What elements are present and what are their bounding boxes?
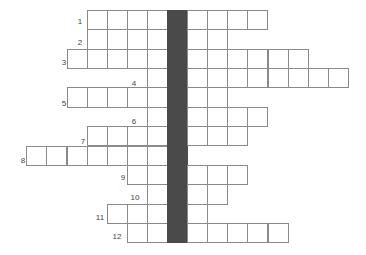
letter-cell[interactable] [187, 29, 208, 49]
letter-cell[interactable] [247, 223, 268, 243]
key-column-cell[interactable] [167, 204, 188, 224]
letter-cell[interactable] [187, 10, 208, 30]
letter-cell[interactable] [187, 204, 208, 224]
letter-cell[interactable] [227, 49, 248, 69]
clue-number: 12 [113, 233, 122, 241]
letter-cell[interactable] [107, 87, 128, 107]
letter-cell[interactable] [127, 29, 148, 49]
letter-cell[interactable] [207, 10, 228, 30]
letter-cell[interactable] [147, 165, 168, 185]
letter-cell[interactable] [127, 165, 148, 185]
letter-cell[interactable] [147, 146, 168, 166]
letter-cell[interactable] [147, 126, 168, 146]
key-column-cell[interactable] [167, 68, 188, 88]
letter-cell[interactable] [207, 87, 228, 107]
clue-number: 2 [78, 39, 82, 47]
letter-cell[interactable] [127, 146, 148, 166]
letter-cell[interactable] [107, 204, 128, 224]
letter-cell[interactable] [227, 223, 248, 243]
letter-cell[interactable] [187, 49, 208, 69]
letter-cell[interactable] [187, 165, 208, 185]
letter-cell[interactable] [207, 107, 228, 127]
crossword-grid: 123456789101112 [0, 0, 366, 255]
letter-cell[interactable] [87, 87, 108, 107]
letter-cell[interactable] [127, 10, 148, 30]
key-column-cell[interactable] [167, 10, 188, 30]
key-column-cell[interactable] [167, 126, 188, 146]
letter-cell[interactable] [207, 126, 228, 146]
letter-cell[interactable] [207, 223, 228, 243]
letter-cell[interactable] [87, 10, 108, 30]
letter-cell[interactable] [247, 10, 268, 30]
letter-cell[interactable] [87, 49, 108, 69]
letter-cell[interactable] [147, 49, 168, 69]
letter-cell[interactable] [147, 10, 168, 30]
letter-cell[interactable] [207, 184, 228, 204]
letter-cell[interactable] [187, 107, 208, 127]
letter-cell[interactable] [207, 49, 228, 69]
letter-cell[interactable] [227, 10, 248, 30]
letter-cell[interactable] [227, 68, 248, 88]
letter-cell[interactable] [147, 184, 168, 204]
letter-cell[interactable] [247, 68, 268, 88]
clue-number: 9 [121, 174, 125, 182]
letter-cell[interactable] [187, 184, 208, 204]
letter-cell[interactable] [87, 29, 108, 49]
letter-cell[interactable] [147, 107, 168, 127]
letter-cell[interactable] [147, 223, 168, 243]
letter-cell[interactable] [247, 49, 268, 69]
letter-cell[interactable] [127, 87, 148, 107]
key-column-cell[interactable] [167, 223, 188, 243]
letter-cell[interactable] [268, 49, 289, 69]
letter-cell[interactable] [288, 49, 309, 69]
letter-cell[interactable] [187, 126, 208, 146]
clue-number: 5 [62, 100, 66, 108]
letter-cell[interactable] [268, 68, 289, 88]
letter-cell[interactable] [107, 146, 128, 166]
key-column-cell[interactable] [167, 146, 188, 166]
letter-cell[interactable] [288, 68, 309, 88]
letter-cell[interactable] [207, 165, 228, 185]
letter-cell[interactable] [67, 87, 88, 107]
key-column-cell[interactable] [167, 107, 188, 127]
letter-cell[interactable] [308, 68, 329, 88]
key-column-cell[interactable] [167, 87, 188, 107]
letter-cell[interactable] [67, 146, 88, 166]
letter-cell[interactable] [227, 107, 248, 127]
key-column-cell[interactable] [167, 29, 188, 49]
clue-number: 3 [62, 59, 66, 67]
clue-number: 10 [131, 194, 140, 202]
letter-cell[interactable] [227, 165, 248, 185]
clue-number: 11 [96, 214, 104, 222]
letter-cell[interactable] [227, 126, 248, 146]
letter-cell[interactable] [46, 146, 67, 166]
key-column-cell[interactable] [167, 165, 188, 185]
letter-cell[interactable] [187, 223, 208, 243]
letter-cell[interactable] [147, 204, 168, 224]
letter-cell[interactable] [127, 204, 148, 224]
letter-cell[interactable] [127, 126, 148, 146]
key-column-cell[interactable] [167, 184, 188, 204]
letter-cell[interactable] [26, 146, 47, 166]
letter-cell[interactable] [268, 223, 289, 243]
letter-cell[interactable] [328, 68, 349, 88]
letter-cell[interactable] [147, 87, 168, 107]
letter-cell[interactable] [107, 29, 128, 49]
letter-cell[interactable] [87, 126, 108, 146]
letter-cell[interactable] [207, 29, 228, 49]
clue-number: 1 [78, 18, 82, 26]
letter-cell[interactable] [107, 126, 128, 146]
letter-cell[interactable] [127, 223, 148, 243]
key-column-cell[interactable] [167, 49, 188, 69]
letter-cell[interactable] [147, 29, 168, 49]
letter-cell[interactable] [187, 68, 208, 88]
letter-cell[interactable] [187, 87, 208, 107]
letter-cell[interactable] [107, 49, 128, 69]
letter-cell[interactable] [67, 49, 88, 69]
letter-cell[interactable] [87, 146, 108, 166]
letter-cell[interactable] [207, 68, 228, 88]
letter-cell[interactable] [127, 49, 148, 69]
letter-cell[interactable] [247, 107, 268, 127]
letter-cell[interactable] [107, 10, 128, 30]
letter-cell[interactable] [147, 68, 168, 88]
